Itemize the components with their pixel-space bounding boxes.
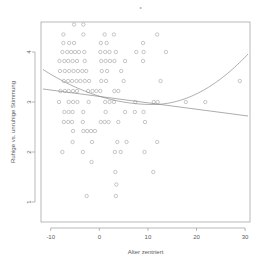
data-point — [91, 89, 94, 92]
data-point — [104, 79, 107, 82]
data-point — [119, 150, 122, 153]
regression-fits-group — [43, 54, 248, 116]
data-point — [75, 89, 78, 92]
data-point — [67, 100, 70, 103]
data-point — [117, 120, 120, 123]
data-point — [135, 50, 138, 53]
data-point — [63, 59, 66, 62]
data-point — [79, 79, 82, 82]
data-point — [66, 50, 69, 53]
data-point — [141, 59, 144, 62]
data-point — [95, 89, 98, 92]
data-point — [100, 79, 103, 82]
data-point — [71, 100, 74, 103]
x-tick-label: 20 — [193, 234, 200, 240]
data-point — [155, 33, 158, 36]
data-point — [108, 100, 111, 103]
data-point — [115, 183, 118, 186]
data-point — [83, 59, 86, 62]
y-tick-label: 1 — [26, 200, 32, 204]
data-point — [141, 41, 144, 44]
x-axis: -100102030 — [46, 228, 249, 240]
data-point — [143, 120, 146, 123]
x-tick-label: 10 — [145, 234, 152, 240]
top-mark-group — [140, 7, 142, 9]
data-point — [71, 89, 74, 92]
data-point — [67, 59, 70, 62]
chart-root: -100102030 1234 Alter zentriert Ruhige v… — [0, 0, 267, 261]
data-point — [73, 50, 76, 53]
data-point — [75, 59, 78, 62]
data-point — [114, 170, 117, 173]
x-tick-label: 30 — [242, 234, 249, 240]
data-point — [119, 69, 122, 72]
data-point — [87, 100, 90, 103]
data-point — [204, 100, 207, 103]
data-point — [70, 79, 73, 82]
data-point — [83, 50, 86, 53]
data-point — [116, 140, 119, 143]
y-axis-title: Ruhige vs. unruhige Stimmung — [10, 81, 16, 163]
x-tick-label: -10 — [46, 234, 55, 240]
data-point — [67, 110, 70, 113]
data-point — [82, 23, 85, 26]
data-point — [71, 129, 74, 132]
data-point — [108, 59, 111, 62]
data-point — [142, 110, 145, 113]
data-point — [159, 79, 162, 82]
data-point — [142, 50, 145, 53]
quadratic-fit — [43, 54, 248, 105]
data-point — [107, 120, 110, 123]
data-point — [104, 59, 107, 62]
x-tick-label: 0 — [98, 234, 102, 240]
data-point — [133, 110, 136, 113]
data-point — [87, 79, 90, 82]
data-point — [58, 59, 61, 62]
data-point — [99, 41, 102, 44]
data-point — [113, 150, 116, 153]
data-point — [63, 110, 66, 113]
y-axis: 1234 — [26, 50, 35, 204]
data-point — [72, 69, 75, 72]
y-tick-label: 2 — [26, 150, 32, 154]
data-point — [112, 33, 115, 36]
x-axis-title: Alter zentriert — [128, 249, 164, 255]
data-point — [85, 194, 88, 197]
data-point — [113, 59, 116, 62]
data-point — [155, 140, 158, 143]
data-point — [77, 50, 80, 53]
data-points-group — [57, 23, 241, 198]
data-point — [156, 100, 159, 103]
data-point — [81, 69, 84, 72]
data-point — [122, 79, 125, 82]
scatter-plot: -100102030 1234 Alter zentriert Ruhige v… — [0, 0, 267, 261]
data-point — [57, 100, 60, 103]
data-point — [184, 100, 187, 103]
data-point — [103, 120, 106, 123]
data-point — [81, 150, 84, 153]
data-point — [117, 89, 120, 92]
data-point — [114, 194, 117, 197]
data-point — [100, 59, 103, 62]
data-point — [123, 110, 126, 113]
data-point — [82, 33, 85, 36]
data-point — [81, 120, 84, 123]
data-point — [152, 170, 155, 173]
data-point — [58, 69, 61, 72]
data-point — [99, 120, 102, 123]
data-point — [89, 129, 92, 132]
data-point — [238, 79, 241, 82]
data-point — [67, 69, 70, 72]
data-point — [63, 69, 66, 72]
data-point — [76, 100, 79, 103]
data-point — [99, 89, 102, 92]
data-point — [103, 50, 106, 53]
data-point — [61, 50, 64, 53]
data-point — [112, 100, 115, 103]
data-point — [67, 41, 70, 44]
data-point — [113, 89, 116, 92]
data-point — [85, 129, 88, 132]
data-point — [105, 69, 108, 72]
data-point — [61, 150, 64, 153]
data-point — [105, 41, 108, 44]
